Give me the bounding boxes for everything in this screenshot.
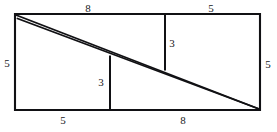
dimension-label-bottom-right-8: 8: [180, 115, 186, 126]
dimension-label-top-right-5: 5: [208, 3, 214, 14]
diagram-canvas: [0, 0, 277, 132]
dimension-label-left-5: 5: [4, 58, 10, 69]
dimension-label-top-8: 8: [85, 3, 91, 14]
diagonal-line-lower: [18, 19, 260, 110]
missing-square-diagram: 8 5 5 5 5 8 3 3: [0, 0, 277, 132]
dimension-label-bottom-left-5: 5: [60, 115, 66, 126]
dimension-label-inner-lower-3: 3: [98, 77, 104, 88]
dimension-label-right-5: 5: [265, 59, 271, 70]
dimension-label-inner-upper-3: 3: [169, 38, 175, 49]
